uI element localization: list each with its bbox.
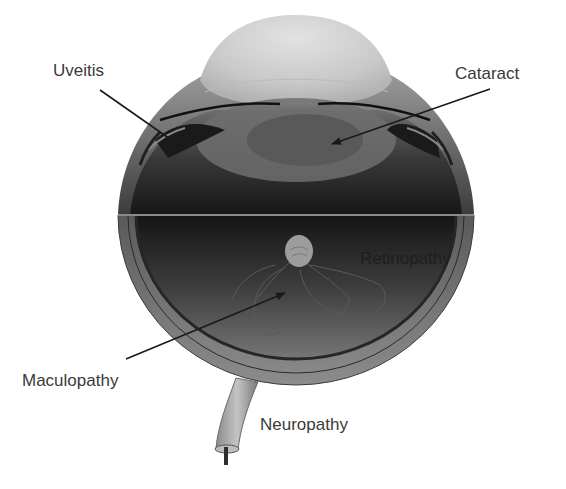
eye-diagram: Uveitis Cataract Retinopathy Maculopathy… xyxy=(0,0,566,489)
label-cataract: Cataract xyxy=(455,65,519,82)
label-retinopathy: Retinopathy xyxy=(360,250,451,267)
label-neuropathy: Neuropathy xyxy=(260,416,348,433)
optic-nerve xyxy=(215,378,258,465)
optic-disc xyxy=(285,235,313,267)
cornea xyxy=(200,15,392,107)
label-maculopathy: Maculopathy xyxy=(22,372,118,389)
label-uveitis: Uveitis xyxy=(53,62,104,79)
